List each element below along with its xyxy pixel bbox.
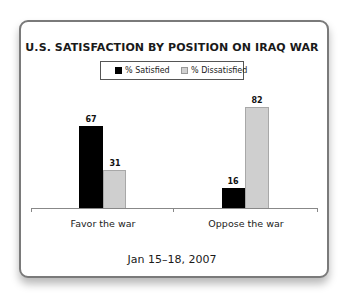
chart-legend: % Satisfied % Dissatisfied [100,61,244,80]
x-axis-tick [173,208,174,212]
legend-item-satisfied: % Satisfied [115,66,170,75]
category-label-favor: Favor the war [33,218,173,229]
legend-label-satisfied: % Satisfied [125,66,170,75]
chart-title: U.S. SATISFACTION BY POSITION ON IRAQ WA… [0,41,344,54]
legend-item-dissatisfied: % Dissatisfied [181,66,247,75]
category-label-oppose: Oppose the war [176,218,316,229]
bar-favor-satisfied [79,126,103,208]
legend-label-dissatisfied: % Dissatisfied [191,66,247,75]
bar-label-favor-satisfied: 67 [79,115,103,124]
bar-label-oppose-dissatisfied: 82 [245,96,269,105]
bar-oppose-dissatisfied [245,107,269,208]
bar-oppose-satisfied [222,188,245,208]
chart-card [19,20,329,278]
bar-label-favor-dissatisfied: 31 [103,159,127,168]
x-axis-tick [317,208,318,212]
x-axis-tick [31,208,32,212]
date-caption: Jan 15–18, 2007 [0,253,344,266]
x-axis-line [31,208,318,209]
legend-swatch-satisfied [115,67,122,74]
legend-swatch-dissatisfied [181,67,188,74]
bar-favor-dissatisfied [103,170,126,208]
bar-label-oppose-satisfied: 16 [221,177,245,186]
